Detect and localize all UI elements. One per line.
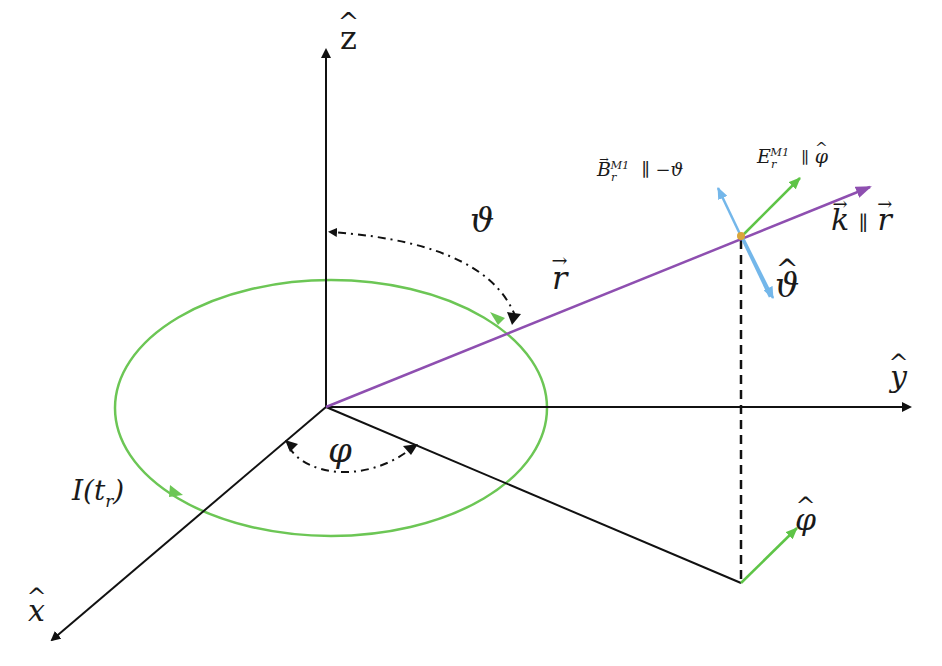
x-axis: [52, 407, 326, 640]
k-parallel-r-label: k ∥ r: [831, 205, 892, 235]
y-axis-label: y: [890, 362, 907, 392]
diagram-canvas: [0, 0, 942, 666]
projection-line: [326, 407, 741, 583]
b-field-label: BrM1 ∥ −ϑ: [597, 160, 683, 184]
phi-hat-label: φ: [795, 505, 816, 535]
phi-angle-label: φ: [328, 433, 352, 467]
theta-hat-vector: [742, 236, 773, 298]
theta-angle-label: ϑ: [470, 203, 494, 237]
observation-point: [737, 232, 745, 240]
phi-hat-vector: [741, 528, 797, 583]
theta-hat-label: ϑ: [775, 268, 799, 302]
phi-arc-head-left: [285, 440, 298, 452]
current-label: I(tr): [72, 477, 124, 509]
e-field-label: ErM1 ∥ φ: [757, 147, 828, 171]
z-axis-label: z: [340, 22, 357, 54]
x-axis-label: x: [28, 596, 45, 626]
loop-arrow-front: [169, 485, 183, 497]
theta-arc: [330, 232, 516, 318]
theta-arc-head: [507, 312, 521, 325]
r-vector-label: r: [552, 262, 567, 294]
